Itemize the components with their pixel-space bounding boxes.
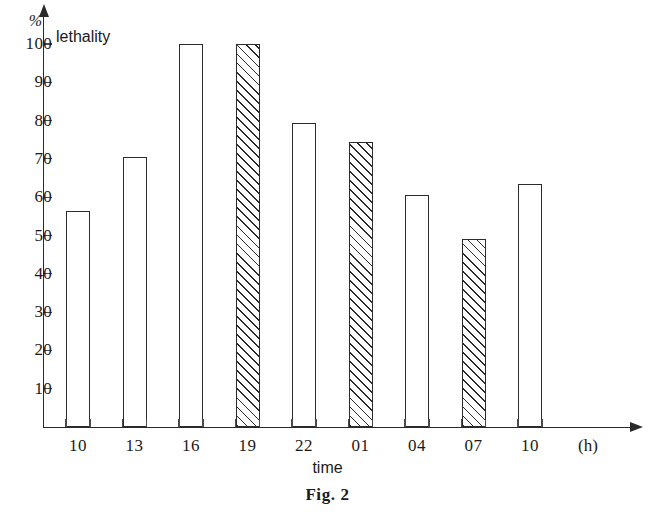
x-tick-mark xyxy=(146,419,147,427)
x-tick-label: 19 xyxy=(225,437,271,455)
bar-01h xyxy=(349,142,373,427)
x-tick-mark xyxy=(485,419,486,427)
y-tick-label: 10 xyxy=(16,380,52,397)
x-tick-label: 13 xyxy=(112,437,158,455)
y-tick-label: 50 xyxy=(16,227,52,244)
y-tick-label: 60 xyxy=(16,188,52,205)
y-tick-label: 40 xyxy=(16,265,52,282)
y-tick-label: 80 xyxy=(16,112,52,129)
x-tick-mark xyxy=(202,419,203,427)
x-axis-title: time xyxy=(0,459,655,477)
y-axis-title: lethality xyxy=(56,28,110,46)
bar-10h xyxy=(518,184,542,427)
x-tick-mark xyxy=(259,419,260,427)
bar-19h xyxy=(236,44,260,427)
y-tick-label: 100 xyxy=(16,35,52,52)
bar-22h xyxy=(292,123,316,427)
bar-04h xyxy=(405,195,429,427)
y-tick-label: 20 xyxy=(16,341,52,358)
x-tick-label: 10 xyxy=(55,437,101,455)
y-tick-label: 90 xyxy=(16,73,52,90)
bar-16h xyxy=(179,44,203,427)
x-tick-label: 07 xyxy=(451,437,497,455)
bar-13h xyxy=(123,157,147,427)
x-tick-mark xyxy=(178,419,179,427)
x-tick-label: 04 xyxy=(394,437,440,455)
x-tick-mark xyxy=(372,419,373,427)
x-tick-mark xyxy=(428,419,429,427)
y-axis-unit: % xyxy=(6,12,42,30)
x-tick-mark xyxy=(404,419,405,427)
x-tick-mark xyxy=(291,419,292,427)
x-tick-mark xyxy=(65,419,66,427)
x-tick-mark xyxy=(517,419,518,427)
x-tick-mark xyxy=(235,419,236,427)
x-axis-arrow-icon xyxy=(630,422,643,432)
x-tick-mark xyxy=(89,419,90,427)
x-tick-label: 22 xyxy=(281,437,327,455)
x-axis-unit: (h) xyxy=(578,437,598,455)
x-tick-label: 01 xyxy=(338,437,384,455)
figure-2-bar-chart: % lethality 100908070605040302010 101316… xyxy=(0,0,655,512)
x-tick-mark xyxy=(315,419,316,427)
y-tick-label: 30 xyxy=(16,303,52,320)
figure-caption: Fig. 2 xyxy=(0,485,655,505)
x-tick-label: 10 xyxy=(507,437,553,455)
x-tick-mark xyxy=(461,419,462,427)
x-tick-mark xyxy=(122,419,123,427)
bar-07h xyxy=(462,239,486,427)
x-tick-label: 16 xyxy=(168,437,214,455)
bar-10h xyxy=(66,211,90,427)
x-tick-mark xyxy=(541,419,542,427)
y-tick-label: 70 xyxy=(16,150,52,167)
x-tick-mark xyxy=(348,419,349,427)
